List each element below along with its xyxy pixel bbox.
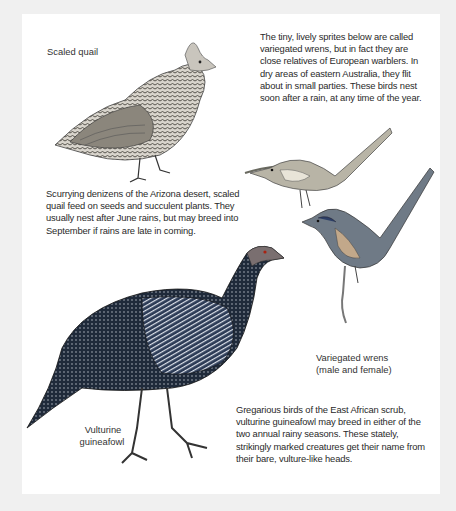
vulturine-guineafowl-label-line1: Vulturine [78, 424, 128, 436]
scaled-quail-description: Scurrying denizens of the Arizona desert… [46, 188, 241, 237]
vulturine-guineafowl-label-line2: guineafowl [72, 436, 132, 448]
vulturine-guineafowl-description: Gregarious birds of the East African scr… [236, 404, 426, 465]
scaled-quail-illustration [50, 30, 220, 185]
variegated-wrens-label-line1: Variegated wrens [316, 352, 388, 364]
variegated-wrens-intro: The tiny, lively sprites below are calle… [260, 31, 430, 104]
variegated-wrens-label-line2: (male and female) [316, 364, 392, 376]
